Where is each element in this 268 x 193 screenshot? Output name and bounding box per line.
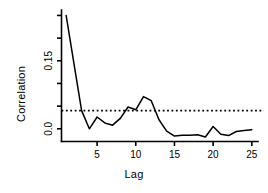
chart-canvas: 0.00.15 510152025 xyxy=(0,0,268,193)
y-tick-label: 0.0 xyxy=(43,121,54,135)
x-tick-label: 20 xyxy=(208,149,220,160)
chart-background xyxy=(0,0,268,193)
x-tick-label: 25 xyxy=(246,149,258,160)
correlogram-figure: 0.00.15 510152025 Lag Correlation xyxy=(0,0,268,193)
x-tick-label: 10 xyxy=(130,149,142,160)
x-axis-label: Lag xyxy=(0,168,268,180)
y-axis-label: Correlation xyxy=(15,46,27,142)
x-tick-label: 15 xyxy=(169,149,181,160)
y-tick-label: 0.15 xyxy=(43,51,54,71)
x-tick-label: 5 xyxy=(94,149,100,160)
